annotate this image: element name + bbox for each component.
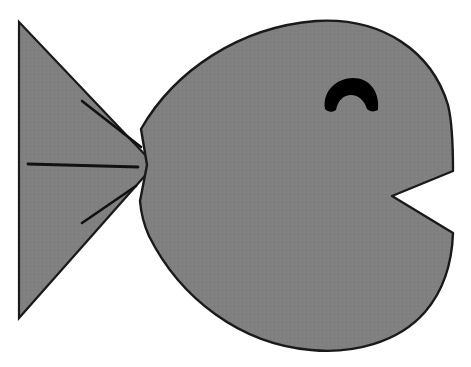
fish-illustration-canvas [0,0,471,367]
fish-illustration [0,0,471,367]
